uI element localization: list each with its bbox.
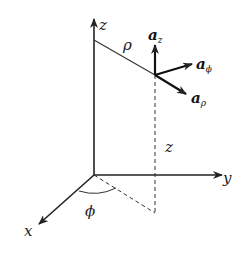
- cylindrical-coordinates-diagram: z y x ρ ϕ z az aϕ aρ: [0, 0, 249, 254]
- a-rho-label: aρ: [191, 89, 207, 108]
- x-axis-label: x: [24, 222, 33, 240]
- y-axis-label: y: [222, 169, 232, 187]
- a-rho-vector: [155, 75, 186, 94]
- projection-dashed-line: [94, 175, 155, 213]
- z-axis-label: z: [98, 16, 107, 34]
- phi-label: ϕ: [85, 202, 95, 220]
- phi-arc: [79, 188, 116, 193]
- height-label: z: [164, 138, 173, 156]
- a-phi-label: aϕ: [196, 55, 212, 74]
- rho-label: ρ: [122, 36, 132, 54]
- diagram-svg: z y x ρ ϕ z az aϕ aρ: [0, 0, 249, 254]
- a-z-label: az: [148, 26, 163, 45]
- a-phi-vector: [155, 64, 192, 75]
